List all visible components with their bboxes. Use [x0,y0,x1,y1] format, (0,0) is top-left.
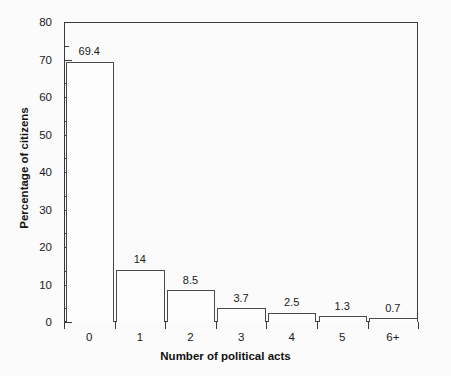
x-tick-label-3: 3 [216,331,266,343]
x-tick-boundary-3 [216,322,217,329]
bar-4[interactable] [268,313,317,322]
x-tick-label-0: 0 [64,331,114,343]
y-major-tick-0 [64,322,72,323]
bar-value-label-6: 0.7 [344,302,441,314]
bar-value-label-2: 8.5 [142,274,239,286]
x-tick-boundary-4 [266,322,267,329]
bar-0[interactable] [66,62,115,322]
bar-value-label-0: 69.4 [41,45,138,57]
y-tick-label-10: 10 [12,279,52,291]
x-tick-label-4: 4 [267,331,317,343]
x-tick-boundary-7 [418,322,419,329]
bar-3[interactable] [217,308,266,322]
x-tick-label-2: 2 [166,331,216,343]
bar-6[interactable] [369,318,418,322]
bar-value-label-1: 14 [91,253,188,265]
x-axis-title: Number of political acts [0,350,451,362]
bar-5[interactable] [319,316,368,322]
x-tick-boundary-2 [165,322,166,329]
bar-chart-figure: 0 10 20 30 40 50 60 70 80 69.4 14 8.5 3.… [0,0,451,376]
y-axis-title: Percentage of citizens [18,68,30,268]
x-tick-label-1: 1 [115,331,165,343]
bars-layer [64,22,418,322]
x-tick-label-6: 6+ [368,331,418,343]
y-tick-label-80: 80 [12,16,52,28]
x-tick-boundary-0 [64,322,65,329]
x-tick-boundary-5 [317,322,318,329]
y-tick-label-0: 0 [12,316,52,328]
x-tick-boundary-6 [368,322,369,329]
x-tick-boundary-1 [115,322,116,329]
x-tick-label-5: 5 [317,331,367,343]
